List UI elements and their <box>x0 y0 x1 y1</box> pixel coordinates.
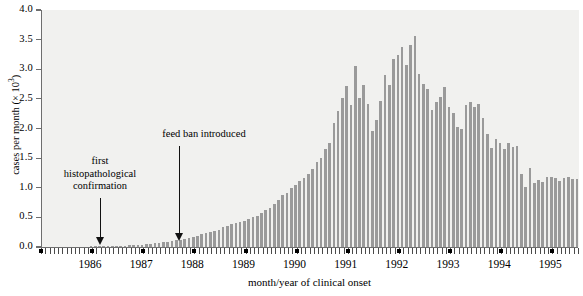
x-axis-tick <box>177 248 178 254</box>
bar <box>209 232 212 247</box>
bar <box>448 107 451 247</box>
x-axis-tick <box>557 248 558 254</box>
bar <box>213 231 216 247</box>
x-axis-tick <box>169 248 170 254</box>
x-axis-tick <box>135 248 136 254</box>
bar <box>290 188 293 247</box>
y-axis-tick-label: 4.0 <box>0 4 33 15</box>
bar <box>388 85 391 247</box>
x-axis-tick <box>369 248 370 254</box>
x-axis-tick <box>288 248 289 254</box>
x-axis-tick <box>284 248 285 254</box>
x-axis-year-boundary-marker <box>550 249 554 254</box>
x-axis-tick <box>429 248 430 254</box>
x-axis-year-label: 1993 <box>423 258 473 270</box>
bar <box>243 221 246 247</box>
x-axis-tick <box>109 248 110 254</box>
bar <box>537 180 540 247</box>
x-axis-tick <box>199 248 200 254</box>
annotation-line-1: first <box>40 155 160 168</box>
bar <box>520 174 523 247</box>
x-axis-tick <box>71 248 72 254</box>
x-axis-tick <box>203 248 204 254</box>
x-axis-tick <box>463 248 464 254</box>
x-axis-tick <box>493 248 494 254</box>
annotation-feed-ban-introduced: feed ban introduced <box>114 128 294 141</box>
bar <box>362 85 365 247</box>
bar <box>375 120 378 247</box>
x-axis-year-boundary-marker <box>192 249 196 254</box>
bar <box>320 158 323 247</box>
x-axis-tick <box>88 248 89 254</box>
x-axis-tick <box>318 248 319 254</box>
x-axis-tick <box>292 248 293 254</box>
annotation-arrow-line-first-confirmation <box>100 198 101 238</box>
x-axis-tick <box>356 248 357 254</box>
bar <box>486 134 489 247</box>
x-axis-tick <box>267 248 268 254</box>
bar <box>247 219 250 247</box>
x-axis-tick <box>433 248 434 254</box>
bar <box>529 168 532 247</box>
bar <box>477 104 480 247</box>
annotation-line-2: histopathological <box>40 168 160 181</box>
y-axis-tick-label: 0.0 <box>0 241 33 252</box>
bar <box>260 213 263 247</box>
x-axis-tick <box>514 248 515 254</box>
x-axis-tick <box>540 248 541 254</box>
x-axis-tick <box>386 248 387 254</box>
x-axis-tick <box>344 248 345 254</box>
x-axis-tick <box>454 248 455 254</box>
bar <box>252 217 255 247</box>
bar <box>392 59 395 247</box>
x-axis-tick <box>216 248 217 254</box>
x-axis-year-boundary-marker <box>295 249 299 254</box>
x-axis-tick <box>165 248 166 254</box>
x-axis-tick <box>416 248 417 254</box>
x-axis-tick <box>211 248 212 254</box>
x-axis-tick <box>224 248 225 254</box>
x-axis-tick <box>148 248 149 254</box>
bar <box>286 193 289 248</box>
bar <box>379 101 382 247</box>
bar <box>239 222 242 247</box>
x-axis-tick <box>96 248 97 254</box>
bar <box>524 187 527 247</box>
x-axis-year-label: 1987 <box>116 258 166 270</box>
x-axis-tick <box>54 248 55 254</box>
x-axis-tick <box>378 248 379 254</box>
x-axis-tick <box>67 248 68 254</box>
bar <box>452 113 455 247</box>
bar <box>512 147 515 247</box>
x-axis-tick <box>160 248 161 254</box>
annotation-arrow-line-feed-ban <box>179 146 180 234</box>
bar <box>414 36 417 247</box>
x-axis-tick <box>113 248 114 254</box>
x-axis-tick <box>437 248 438 254</box>
bar <box>226 226 229 247</box>
bar <box>550 177 553 248</box>
x-axis-tick <box>331 248 332 254</box>
bar <box>311 169 314 247</box>
bar <box>222 227 225 247</box>
x-axis-tick <box>523 248 524 254</box>
x-axis-tick <box>420 248 421 254</box>
x-axis-tick <box>258 248 259 254</box>
x-axis-tick <box>535 248 536 254</box>
y-axis-tick-label: 1.0 <box>0 182 33 193</box>
bar <box>397 55 400 247</box>
x-axis-tick <box>480 248 481 254</box>
bar <box>426 89 429 247</box>
bar <box>495 139 498 247</box>
bar <box>533 183 536 247</box>
x-axis-tick <box>497 248 498 254</box>
x-axis-tick <box>361 248 362 254</box>
x-axis-year-label: 1988 <box>167 258 217 270</box>
bar <box>273 204 276 247</box>
bar <box>401 47 404 247</box>
x-axis-tick <box>510 248 511 254</box>
annotation-first-histopathological-confirmation: first histopathological confirmation <box>40 155 160 193</box>
x-axis-tick <box>50 248 51 254</box>
bar <box>576 179 579 247</box>
x-axis-tick <box>442 248 443 254</box>
